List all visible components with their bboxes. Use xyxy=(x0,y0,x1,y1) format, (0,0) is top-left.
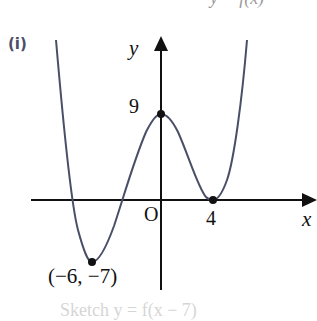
minimum-point-label: (−6, −7) xyxy=(48,264,117,289)
x-tick-4-label: 4 xyxy=(206,207,216,230)
y-axis-label: y xyxy=(129,36,138,61)
x-axis-arrow-icon xyxy=(302,193,317,207)
x-axis-label: x xyxy=(302,207,311,232)
point-x-4 xyxy=(209,196,217,204)
y-intercept-label: 9 xyxy=(129,95,139,118)
y-axis-arrow-icon xyxy=(154,36,168,51)
function-curve xyxy=(56,40,247,262)
cropped-question-text: Sketch y = f(x − 7) xyxy=(60,300,197,321)
origin-label: O xyxy=(144,203,158,226)
point-y-intercept xyxy=(157,110,165,118)
